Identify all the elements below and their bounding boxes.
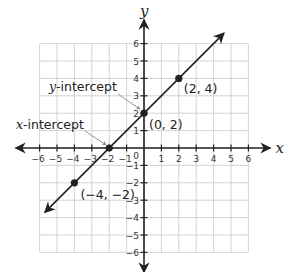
data-point [175, 75, 182, 82]
y-tick-label: 4 [133, 74, 139, 84]
point-label: (0, 2) [149, 117, 183, 132]
y-tick-label: −5 [126, 231, 139, 241]
y-tick-label: 1 [133, 126, 139, 136]
y-tick-label: −6 [126, 248, 140, 258]
pointer-arrow [85, 131, 106, 145]
x-tick-label: 3 [193, 154, 199, 164]
coordinate-plane: x-intercepty-intercept −6−5−4−3−2−112345… [0, 0, 293, 272]
y-intercept-label: y-intercept [48, 79, 117, 94]
x-tick-label: −3 [84, 154, 97, 164]
x-axis-label: x [275, 139, 284, 157]
data-point [106, 144, 113, 151]
x-tick-label: −5 [49, 154, 62, 164]
y-tick-label: −1 [126, 161, 139, 171]
axes [16, 20, 271, 272]
x-tick-label: 2 [176, 154, 182, 164]
x-tick-label: −4 [66, 154, 80, 164]
point-label: (−4, −2) [80, 187, 135, 202]
y-tick-label: −4 [126, 213, 140, 223]
x-tick-label: −2 [101, 154, 114, 164]
x-tick-label: 6 [246, 154, 252, 164]
data-point [140, 110, 147, 117]
y-tick-label: 5 [133, 57, 139, 67]
y-axis-label: y [139, 2, 149, 20]
x-tick-label: 5 [228, 154, 234, 164]
x-tick-label: 4 [211, 154, 217, 164]
y-tick-label: 2 [133, 109, 139, 119]
y-tick-label: 3 [133, 91, 139, 101]
x-tick-label: −6 [31, 154, 45, 164]
x-intercept-label: x-intercept [16, 117, 84, 132]
point-label: (2, 4) [184, 81, 218, 96]
y-tick-label: 6 [133, 39, 139, 49]
x-tick-label: 1 [159, 154, 165, 164]
origin-label: 0 [133, 151, 139, 161]
data-point [71, 179, 78, 186]
